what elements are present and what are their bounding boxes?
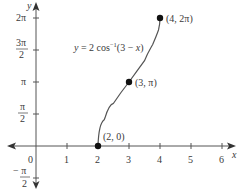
- x-axis-label: x: [231, 149, 237, 160]
- point-4-2pi: [157, 15, 163, 21]
- origin-label: 0: [28, 154, 33, 165]
- x-tick-label: 2: [95, 154, 100, 165]
- point-3-pi: [126, 79, 132, 85]
- x-tick-label: 3: [126, 154, 131, 165]
- y-axis-label: y: [26, 0, 32, 11]
- x-tick-label: 6: [219, 154, 224, 165]
- chart: 0 1 2 3 4 5 6 x y 2π 3π 2 π π 2 − π 2 (2…: [0, 0, 241, 189]
- equation-label: y = 2 cos−1(3 − x): [73, 41, 144, 54]
- y-tick-label-3pi2-den: 2: [19, 49, 24, 60]
- point-label-4-2pi: (4, 2π): [166, 13, 193, 25]
- y-tick-label-neg-pi2-num: − π: [13, 165, 26, 176]
- y-tick-label-pi2-num: π: [20, 101, 25, 112]
- x-tick-label: 5: [188, 154, 193, 165]
- y-tick-label-neg-pi2-den: 2: [22, 178, 27, 189]
- x-tick-label: 4: [157, 154, 162, 165]
- y-tick-label-pi2-den: 2: [20, 113, 25, 124]
- point-label-2-0: (2, 0): [103, 131, 125, 143]
- point-2-0: [95, 143, 101, 149]
- y-tick-label-3pi2-num: 3π: [16, 37, 26, 48]
- y-tick-label-2pi: 2π: [16, 12, 26, 23]
- point-label-3-pi: (3, π): [135, 77, 157, 89]
- y-tick-label-pi: π: [21, 76, 26, 87]
- x-tick-label: 1: [64, 154, 69, 165]
